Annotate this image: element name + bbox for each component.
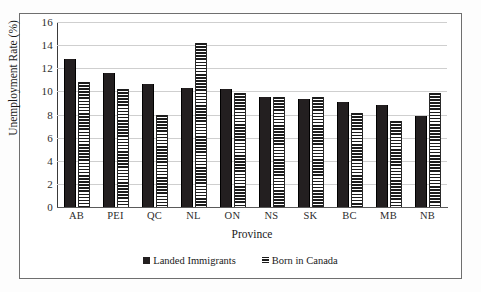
- bar-group: [291, 22, 330, 207]
- bar-qc-solid: [142, 84, 154, 207]
- x-axis-tick-label-ns: NS: [252, 210, 291, 221]
- bar-bc-striped: [351, 113, 363, 207]
- bar-bc-solid: [337, 102, 349, 207]
- bar-nl-striped: [195, 43, 207, 207]
- bar-pei-striped: [117, 89, 129, 207]
- bar-group: [96, 22, 135, 207]
- bar-group: [213, 22, 252, 207]
- legend-label: Born in Canada: [272, 255, 338, 266]
- bar-group: [369, 22, 408, 207]
- x-axis-tick-label-qc: QC: [135, 210, 174, 221]
- bar-qc-striped: [156, 115, 168, 208]
- x-axis-line: [57, 207, 448, 208]
- legend-item: Born in Canada: [262, 255, 338, 266]
- bar-group: [174, 22, 213, 207]
- y-axis-title: Unemployment Rate (%): [7, 3, 19, 153]
- bar-groups: [57, 22, 447, 207]
- bar-ns-striped: [273, 97, 285, 207]
- bar-group: [408, 22, 447, 207]
- bar-ab-solid: [64, 59, 76, 207]
- legend-swatch-striped: [262, 257, 269, 264]
- legend-item: Landed Immigrants: [143, 255, 236, 266]
- x-axis-tick-label-ab: AB: [57, 210, 96, 221]
- bar-sk-solid: [298, 99, 310, 207]
- bar-pei-solid: [103, 73, 115, 207]
- bar-mb-striped: [390, 121, 402, 207]
- y-axis-tick-label: 2: [7, 179, 53, 190]
- bar-sk-striped: [312, 97, 324, 207]
- x-axis-title: Province: [57, 228, 447, 240]
- x-axis-tick-label-on: ON: [213, 210, 252, 221]
- x-axis-tick-labels: ABPEIQCNLONNSSKBCMBNB: [57, 210, 447, 221]
- bar-group: [135, 22, 174, 207]
- chart-legend: Landed ImmigrantsBorn in Canada: [0, 255, 481, 266]
- bar-nb-solid: [415, 116, 427, 207]
- bar-mb-solid: [376, 105, 388, 207]
- y-axis-tick-label: 0: [7, 202, 53, 213]
- y-axis-tick-label: 4: [7, 156, 53, 167]
- bar-group: [57, 22, 96, 207]
- x-axis-tick-label-sk: SK: [291, 210, 330, 221]
- bar-group: [330, 22, 369, 207]
- bar-ns-solid: [259, 97, 271, 207]
- bar-nl-solid: [181, 88, 193, 207]
- bar-group: [252, 22, 291, 207]
- chart-figure: 1614121086420 Unemployment Rate (%) ABPE…: [0, 0, 481, 292]
- bar-on-striped: [234, 93, 246, 207]
- x-axis-tick-label-nl: NL: [174, 210, 213, 221]
- x-axis-tick-label-bc: BC: [330, 210, 369, 221]
- x-axis-tick-label-pei: PEI: [96, 210, 135, 221]
- legend-label: Landed Immigrants: [153, 255, 236, 266]
- bar-ab-striped: [78, 82, 90, 207]
- x-axis-tick-label-mb: MB: [369, 210, 408, 221]
- bar-on-solid: [220, 89, 232, 207]
- bar-nb-striped: [429, 93, 441, 207]
- plot-area: [57, 22, 447, 207]
- x-axis-tick-label-nb: NB: [408, 210, 447, 221]
- legend-swatch-solid: [143, 257, 150, 264]
